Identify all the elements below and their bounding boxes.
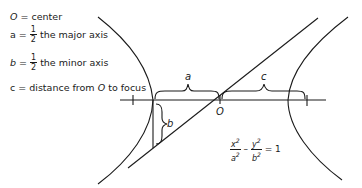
equals-one: = 1 [265,144,281,154]
hyperbola-diagram [0,0,362,188]
a-exp: 2 [236,151,240,158]
y-exp: 2 [257,137,261,144]
label-b: b [167,118,173,129]
x-fraction: x2 a2 [230,136,241,162]
minus-sign: – [244,144,249,154]
label-center: O [216,106,224,117]
y-fraction: y2 b2 [251,136,262,162]
x-exp: 2 [236,137,240,144]
label-c: c [261,71,267,82]
b-exp: 2 [257,151,261,158]
brace-c [222,84,305,99]
label-a: a [185,71,191,82]
hyperbola-equation: x2 a2 – y2 b2 = 1 [227,136,281,162]
right-branch [288,17,348,180]
brace-a [155,84,219,99]
